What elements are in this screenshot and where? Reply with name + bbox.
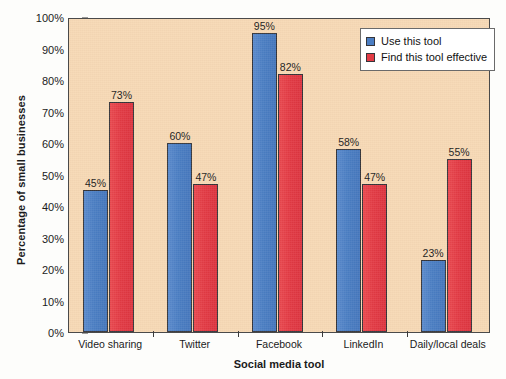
bar-group: 60%47% [153,19,237,332]
bar-group: 95%82% [238,19,322,332]
y-tick-label: 60% [20,138,64,150]
bar[interactable]: 47% [362,184,387,332]
x-tick-label: LinkedIn [344,338,384,350]
legend-swatch-icon [366,37,375,46]
chart-legend: Use this toolFind this tool effective [360,28,495,71]
y-tick-label: 80% [20,75,64,87]
y-tick-label: 10% [20,296,64,308]
y-tick-label: 30% [20,233,64,245]
legend-label: Find this tool effective [381,51,487,63]
x-tick-label: Daily/local deals [410,338,486,350]
legend-swatch-icon [366,53,375,62]
bar-value-label: 73% [111,89,132,101]
x-axis-title: Social media tool [68,358,490,370]
bar[interactable]: 23% [421,260,446,332]
legend-label: Use this tool [381,35,442,47]
legend-item[interactable]: Find this tool effective [366,49,487,65]
bar[interactable]: 95% [252,33,277,332]
bar-value-label: 60% [169,130,190,142]
bar[interactable]: 73% [109,102,134,332]
y-tick-label: 50% [20,170,64,182]
bar-value-label: 58% [338,136,359,148]
bar-value-label: 47% [364,171,385,183]
y-tick-label: 20% [20,264,64,276]
bar-value-label: 47% [195,171,216,183]
x-tick-mark [322,331,323,337]
bar[interactable]: 82% [278,74,303,332]
bar-value-label: 23% [423,247,444,259]
y-tick-label: 100% [20,12,64,24]
bar[interactable]: 55% [447,159,472,332]
bar[interactable]: 47% [193,184,218,332]
y-tick-label: 90% [20,44,64,56]
bar[interactable]: 45% [83,190,108,332]
x-tick-label: Twitter [179,338,210,350]
x-tick-mark [238,331,239,337]
legend-item[interactable]: Use this tool [366,33,487,49]
y-axis-ticks: 0%10%20%30%40%50%60%70%80%90%100% [20,18,64,333]
bar-value-label: 95% [254,20,275,32]
chart-figure: Percentage of small businesses 0%10%20%3… [0,0,506,379]
bar-value-label: 82% [280,61,301,73]
bar[interactable]: 58% [336,149,361,332]
x-tick-mark [407,331,408,337]
bar-group: 45%73% [69,19,153,332]
x-tick-mark [153,331,154,337]
bar[interactable]: 60% [167,143,192,332]
y-tick-label: 70% [20,107,64,119]
x-tick-label: Video sharing [78,338,142,350]
bar-value-label: 55% [449,146,470,158]
x-axis-ticks: Video sharingTwitterFacebookLinkedInDail… [68,338,490,356]
bar-value-label: 45% [85,177,106,189]
x-tick-label: Facebook [256,338,302,350]
y-tick-label: 40% [20,201,64,213]
y-tick-label: 0% [20,327,64,339]
